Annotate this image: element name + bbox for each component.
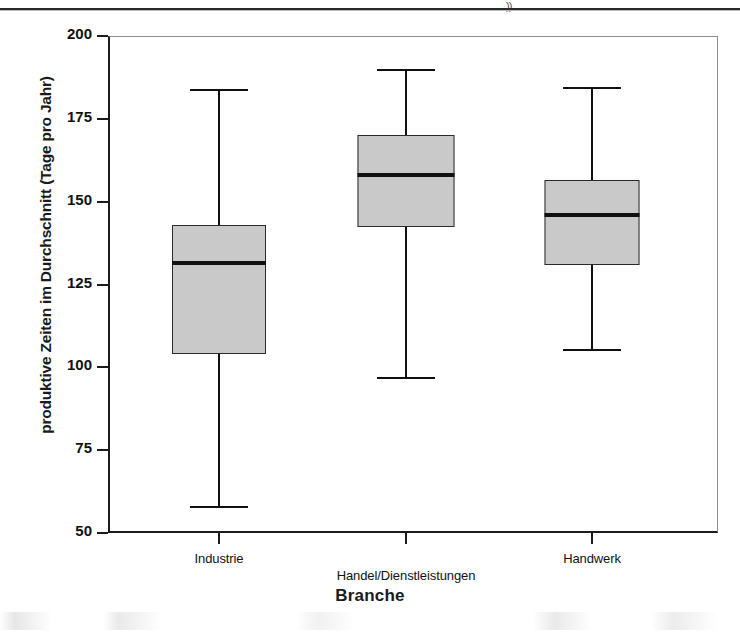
median-line: [358, 173, 455, 177]
whisker-upper: [405, 69, 407, 135]
y-axis-tick-mark: [97, 118, 108, 120]
whisker-upper: [218, 89, 220, 225]
whisker-cap-lower: [190, 506, 248, 508]
y-axis-tick-label: 200: [67, 25, 92, 42]
y-axis-tick-label: 150: [67, 191, 92, 208]
y-axis-tick-label: 125: [67, 274, 92, 291]
x-axis-tick-mark: [218, 533, 220, 544]
y-axis-tick-label: 100: [67, 356, 92, 373]
x-axis-tick-label: Handwerk: [563, 551, 621, 566]
box-iqr-rect: [545, 180, 640, 264]
y-axis-tick-mark: [97, 532, 108, 534]
whisker-lower: [218, 354, 220, 506]
median-line: [545, 213, 640, 217]
y-axis-tick-mark: [97, 201, 108, 203]
whisker-upper: [591, 87, 593, 180]
y-axis-title: produktive Zeiten im Durchschnitt (Tage …: [37, 5, 55, 505]
y-axis-tick-mark: [97, 284, 108, 286]
x-axis-tick-label: Industrie: [195, 551, 244, 566]
box-iqr-rect: [172, 225, 266, 354]
whisker-lower: [405, 227, 407, 378]
y-axis-tick-label: 50: [75, 522, 92, 539]
y-axis-tick-mark: [97, 366, 108, 368]
x-axis-tick-label: Handel/Dienstleistungen: [337, 568, 476, 583]
median-line: [172, 261, 266, 265]
whisker-lower: [591, 265, 593, 349]
boxplot-figure: produktive Zeiten im Durchschnitt (Tage …: [0, 0, 740, 641]
whisker-cap-upper: [563, 87, 621, 89]
x-axis-title: Branche: [0, 586, 740, 606]
whisker-cap-upper: [377, 69, 435, 71]
whisker-cap-lower: [377, 377, 435, 379]
box-iqr-rect: [358, 135, 455, 226]
y-axis-tick-mark: [97, 449, 108, 451]
scan-noise-band: [0, 612, 740, 630]
x-axis-tick-mark: [405, 533, 407, 544]
y-axis-tick-label: 175: [67, 108, 92, 125]
y-axis-tick-label: 75: [75, 439, 92, 456]
whisker-cap-lower: [563, 349, 621, 351]
whisker-cap-upper: [190, 89, 248, 91]
x-axis-tick-mark: [591, 533, 593, 544]
y-axis-tick-mark: [97, 35, 108, 37]
